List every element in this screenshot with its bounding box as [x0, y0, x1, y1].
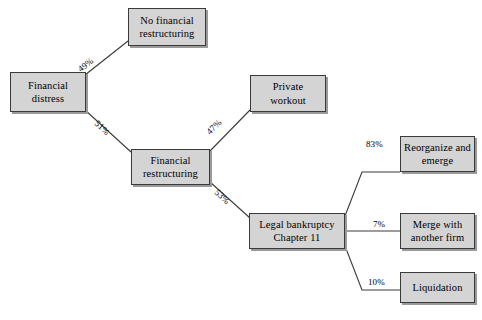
node-label: Merge with another firm [408, 218, 467, 244]
decision-tree-diagram: Financial distress No financial restruct… [0, 0, 482, 320]
node-label: Financial distress [25, 79, 71, 105]
node-label: Private workout [267, 80, 309, 106]
edge-label-7: 7% [373, 219, 385, 229]
node-label: Reorganize and emerge [401, 141, 474, 167]
node-reorganize-and-emerge[interactable]: Reorganize and emerge [400, 136, 475, 172]
node-financial-restructuring[interactable]: Financial restructuring [131, 149, 210, 185]
node-label: Financial restructuring [140, 154, 201, 180]
node-label: Liquidation [409, 281, 465, 294]
node-no-financial-restructuring[interactable]: No financial restructuring [128, 8, 206, 46]
node-merge-with-another-firm[interactable]: Merge with another firm [400, 213, 475, 249]
node-label: Legal bankruptcy Chapter 11 [256, 218, 337, 244]
node-private-workout[interactable]: Private workout [250, 75, 326, 112]
edge-line-83 [345, 172, 400, 216]
node-financial-distress[interactable]: Financial distress [10, 72, 86, 112]
node-legal-bankruptcy[interactable]: Legal bankruptcy Chapter 11 [249, 213, 345, 249]
node-label: No financial restructuring [137, 14, 198, 40]
edge-label-83: 83% [366, 139, 383, 149]
node-liquidation[interactable]: Liquidation [400, 272, 475, 303]
edge-label-10: 10% [368, 277, 385, 287]
